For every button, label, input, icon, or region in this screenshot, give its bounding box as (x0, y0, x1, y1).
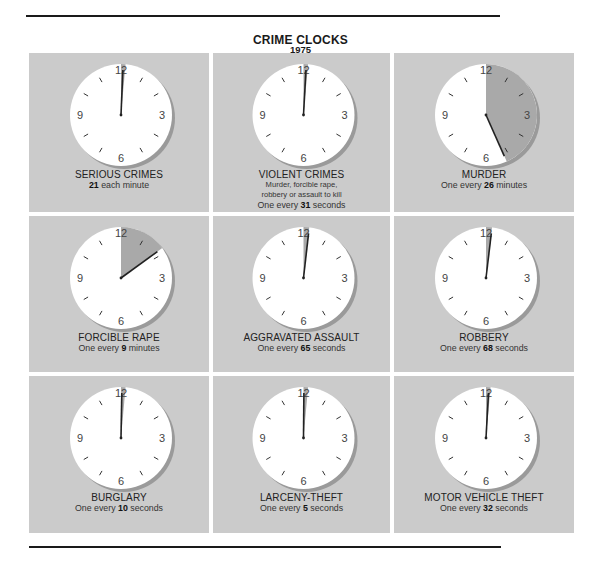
clock-caption: VIOLENT CRIMESMurder, forcible rape,robb… (213, 169, 390, 211)
clock-numeral: 9 (442, 272, 448, 284)
hand-pivot (302, 437, 305, 440)
frequency-unit: minutes (494, 180, 527, 190)
clock-numeral: 9 (77, 272, 83, 284)
clock-caption: ROBBERYOne every 68 seconds (394, 332, 574, 354)
clock-caption: BURGLARYOne every 10 seconds (29, 492, 209, 514)
clock-panel-aggravated-assault: 12369AGGRAVATED ASSAULTOne every 65 seco… (213, 216, 390, 372)
clock-caption: FORCIBLE RAPEOne every 9 minutes (29, 332, 209, 354)
clock-caption: AGGRAVATED ASSAULTOne every 65 seconds (213, 332, 390, 354)
crime-category: BURGLARY (29, 492, 209, 503)
clock-numeral: 12 (297, 64, 309, 76)
hand-pivot (120, 114, 123, 117)
minute-hand (121, 393, 122, 438)
frequency-text: 21 each minute (29, 180, 209, 191)
clock-numeral: 6 (300, 475, 306, 487)
clock-numeral: 3 (341, 109, 347, 121)
crime-category: MURDER (394, 169, 574, 180)
frequency-text: One every 31 seconds (213, 200, 390, 211)
frequency-unit: seconds (493, 503, 528, 513)
frequency-unit: seconds (493, 343, 528, 353)
clock-numeral: 3 (524, 272, 530, 284)
crime-category: FORCIBLE RAPE (29, 332, 209, 343)
frequency-prefix: One every (75, 503, 118, 513)
frequency-value: 21 (89, 180, 99, 190)
frequency-value: 65 (301, 343, 311, 353)
frequency-text: One every 68 seconds (394, 343, 574, 354)
clock-numeral: 6 (118, 152, 124, 164)
clock-numeral: 12 (480, 64, 492, 76)
clock-numeral: 9 (77, 432, 83, 444)
clock-numeral: 9 (259, 272, 265, 284)
clock-numeral: 9 (259, 109, 265, 121)
clock-numeral: 9 (259, 432, 265, 444)
frequency-prefix: One every (260, 503, 303, 513)
clock-numeral: 6 (300, 315, 306, 327)
frequency-unit: seconds (310, 200, 345, 210)
clock-caption: LARCENY-THEFTOne every 5 seconds (213, 492, 390, 514)
hand-pivot (485, 277, 488, 280)
crime-category: LARCENY-THEFT (213, 492, 390, 503)
crime-category: MOTOR VEHICLE THEFT (394, 492, 574, 503)
clock-panel-serious-crimes: 12369SERIOUS CRIMES21 each minute (29, 53, 209, 212)
top-rule (26, 15, 500, 17)
frequency-value: 32 (483, 503, 493, 513)
clock-numeral: 3 (159, 272, 165, 284)
clock-numeral: 3 (159, 432, 165, 444)
frequency-text: One every 26 minutes (394, 180, 574, 191)
frequency-prefix: One every (440, 503, 483, 513)
frequency-value: 26 (484, 180, 494, 190)
clock-numeral: 12 (115, 227, 127, 239)
category-description: robbery or assault to kill (213, 190, 390, 200)
category-description: Murder, forcible rape, (213, 180, 390, 190)
frequency-prefix: One every (440, 343, 483, 353)
clock-numeral: 6 (118, 475, 124, 487)
frequency-text: One every 9 minutes (29, 343, 209, 354)
frequency-prefix: One every (257, 200, 300, 210)
frequency-unit: seconds (128, 503, 163, 513)
frequency-prefix: One every (257, 343, 300, 353)
clock-caption: SERIOUS CRIMES21 each minute (29, 169, 209, 191)
clock-numeral: 3 (341, 432, 347, 444)
frequency-unit: each minute (99, 180, 149, 190)
clock-panel-larceny-theft: 12369LARCENY-THEFTOne every 5 seconds (213, 376, 390, 533)
clock-panel-violent-crimes: 12369VIOLENT CRIMESMurder, forcible rape… (213, 53, 390, 212)
frequency-value: 31 (301, 200, 311, 210)
crime-category: VIOLENT CRIMES (213, 169, 390, 180)
clock-numeral: 9 (442, 109, 448, 121)
clock-caption: MURDEROne every 26 minutes (394, 169, 574, 191)
bottom-rule (29, 546, 501, 548)
frequency-text: One every 32 seconds (394, 503, 574, 514)
frequency-text: One every 10 seconds (29, 503, 209, 514)
frequency-unit: seconds (308, 503, 343, 513)
frequency-text: One every 65 seconds (213, 343, 390, 354)
frequency-value: 68 (483, 343, 493, 353)
clock-caption: MOTOR VEHICLE THEFTOne every 32 seconds (394, 492, 574, 514)
clock-numeral: 9 (442, 432, 448, 444)
frequency-prefix: One every (78, 343, 121, 353)
hand-pivot (302, 114, 305, 117)
clock-numeral: 6 (118, 315, 124, 327)
clock-numeral: 6 (483, 475, 489, 487)
frequency-unit: seconds (310, 343, 345, 353)
crime-category: ROBBERY (394, 332, 574, 343)
clock-numeral: 6 (300, 152, 306, 164)
clock-panel-forcible-rape: 12369FORCIBLE RAPEOne every 9 minutes (29, 216, 209, 372)
crime-category: AGGRAVATED ASSAULT (213, 332, 390, 343)
hand-pivot (120, 277, 123, 280)
clock-numeral: 3 (159, 109, 165, 121)
clock-numeral: 3 (524, 109, 530, 121)
crime-category: SERIOUS CRIMES (29, 169, 209, 180)
hand-pivot (120, 437, 123, 440)
clock-numeral: 3 (341, 272, 347, 284)
clock-numeral: 6 (483, 315, 489, 327)
hand-pivot (485, 114, 488, 117)
clock-numeral: 9 (77, 109, 83, 121)
hand-pivot (485, 437, 488, 440)
clock-numeral: 6 (483, 152, 489, 164)
clock-panel-murder: 12369MURDEROne every 26 minutes (394, 53, 574, 212)
clock-numeral: 12 (480, 387, 492, 399)
frequency-text: One every 5 seconds (213, 503, 390, 514)
clock-panel-robbery: 12369ROBBERYOne every 68 seconds (394, 216, 574, 372)
frequency-unit: minutes (126, 343, 159, 353)
clock-panel-motor-vehicle-theft: 12369MOTOR VEHICLE THEFTOne every 32 sec… (394, 376, 574, 533)
